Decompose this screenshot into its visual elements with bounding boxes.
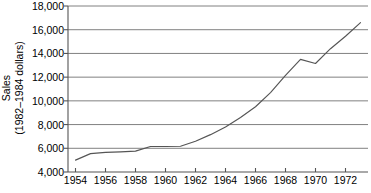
x-axis-tick-label: 1972 [334, 174, 357, 186]
x-axis-tick-label: 1966 [244, 174, 267, 186]
x-axis-tick-labels: 1954195619581960196219641966196819701972 [68, 174, 368, 190]
line-chart: Sales (1982–1984 dollars) 18,00016,00014… [0, 0, 371, 193]
y-axis-tick-label: 10,000 [32, 95, 64, 106]
x-axis-tick-label: 1968 [274, 174, 297, 186]
y-axis-tick-labels: 18,00016,00014,00012,00010,0008,0006,000… [22, 0, 64, 180]
x-axis-tick-label: 1958 [124, 174, 147, 186]
data-series-line [76, 23, 361, 161]
plot-area [68, 6, 368, 172]
y-axis-tick-label: 8,000 [38, 119, 64, 130]
gridlines [68, 6, 368, 148]
x-axis-tick-label: 1960 [154, 174, 177, 186]
x-axis-tick-label: 1970 [304, 174, 327, 186]
y-axis-tick-label: 18,000 [32, 1, 64, 12]
y-axis-tick-label: 4,000 [38, 167, 64, 178]
x-axis-tick-marks [76, 168, 346, 172]
plot-svg [68, 6, 368, 172]
x-axis-tick-label: 1954 [64, 174, 87, 186]
y-axis-tick-label: 16,000 [32, 24, 64, 35]
y-axis-tick-label: 12,000 [32, 72, 64, 83]
y-axis-tick-label: 14,000 [32, 48, 64, 59]
y-axis-tick-label: 6,000 [38, 143, 64, 154]
x-axis-tick-label: 1964 [214, 174, 237, 186]
x-axis-tick-label: 1956 [94, 174, 117, 186]
y-axis-tick-marks [64, 6, 68, 172]
x-axis-tick-label: 1962 [184, 174, 207, 186]
y-axis-title-line1: Sales [0, 41, 13, 134]
